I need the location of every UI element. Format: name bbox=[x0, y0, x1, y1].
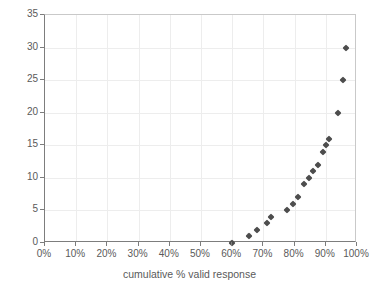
y-tick-mark bbox=[40, 79, 44, 80]
y-tick-label: 10 bbox=[27, 172, 38, 182]
gridline-vertical bbox=[76, 15, 77, 241]
gridline-vertical bbox=[107, 15, 108, 241]
x-tick-label: 70% bbox=[252, 249, 272, 259]
x-tick-label: 40% bbox=[159, 249, 179, 259]
y-tick-label: 35 bbox=[27, 9, 38, 19]
y-tick-label: 15 bbox=[27, 139, 38, 149]
gridline-horizontal bbox=[45, 145, 355, 146]
data-point bbox=[254, 226, 261, 233]
x-tick-label: 90% bbox=[315, 249, 335, 259]
data-point bbox=[343, 44, 350, 51]
y-tick-mark bbox=[40, 47, 44, 48]
gridline-vertical bbox=[295, 15, 296, 241]
x-tick-mark bbox=[325, 242, 326, 246]
data-point bbox=[246, 233, 253, 240]
gridline-vertical bbox=[139, 15, 140, 241]
y-tick-label: 30 bbox=[27, 42, 38, 52]
x-tick-mark bbox=[262, 242, 263, 246]
y-tick-label: 25 bbox=[27, 74, 38, 84]
data-point bbox=[229, 239, 236, 246]
x-tick-mark bbox=[200, 242, 201, 246]
data-point bbox=[335, 109, 342, 116]
data-point bbox=[322, 142, 329, 149]
x-tick-mark bbox=[75, 242, 76, 246]
gridline-vertical bbox=[170, 15, 171, 241]
x-axis-label: cumulative % valid response bbox=[0, 268, 379, 280]
y-tick-label: 0 bbox=[32, 237, 38, 247]
x-tick-label: 10% bbox=[65, 249, 85, 259]
x-tick-label: 80% bbox=[284, 249, 304, 259]
x-tick-label: 30% bbox=[128, 249, 148, 259]
y-tick-mark bbox=[40, 112, 44, 113]
y-tick-label: 5 bbox=[32, 204, 38, 214]
x-tick-mark bbox=[294, 242, 295, 246]
gridline-horizontal bbox=[45, 113, 355, 114]
y-tick-mark bbox=[40, 144, 44, 145]
data-point bbox=[310, 168, 317, 175]
gridline-vertical bbox=[326, 15, 327, 241]
gridline-vertical bbox=[263, 15, 264, 241]
data-point bbox=[339, 77, 346, 84]
x-tick-label: 50% bbox=[190, 249, 210, 259]
x-tick-mark bbox=[44, 242, 45, 246]
gridline-horizontal bbox=[45, 48, 355, 49]
scatter-chart-figure: 05101520253035 0%10%20%30%40%50%60%70%80… bbox=[0, 0, 379, 289]
gridline-horizontal bbox=[45, 80, 355, 81]
plot-area bbox=[44, 14, 356, 242]
data-point bbox=[314, 161, 321, 168]
x-tick-label: 60% bbox=[221, 249, 241, 259]
gridline-vertical bbox=[232, 15, 233, 241]
data-point bbox=[300, 181, 307, 188]
data-point bbox=[305, 174, 312, 181]
x-tick-mark bbox=[106, 242, 107, 246]
data-point bbox=[268, 213, 275, 220]
y-tick-mark bbox=[40, 14, 44, 15]
x-tick-mark bbox=[356, 242, 357, 246]
x-tick-label: 0% bbox=[37, 249, 51, 259]
data-point bbox=[283, 207, 290, 214]
y-tick-mark bbox=[40, 177, 44, 178]
x-tick-mark bbox=[169, 242, 170, 246]
y-tick-mark bbox=[40, 209, 44, 210]
x-tick-mark bbox=[231, 242, 232, 246]
x-tick-label: 20% bbox=[96, 249, 116, 259]
gridline-horizontal bbox=[45, 210, 355, 211]
y-tick-label: 20 bbox=[27, 107, 38, 117]
gridline-vertical bbox=[201, 15, 202, 241]
x-tick-label: 100% bbox=[343, 249, 369, 259]
x-tick-mark bbox=[138, 242, 139, 246]
